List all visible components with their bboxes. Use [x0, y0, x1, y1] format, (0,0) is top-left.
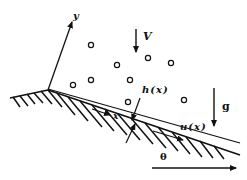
gravity-label: g: [222, 101, 230, 112]
diagram-drawing: [0, 0, 247, 180]
y-axis-arrow: [48, 22, 72, 90]
film-surface: [48, 89, 240, 143]
particle: [114, 62, 119, 67]
x-axis-label: x: [113, 112, 118, 121]
film-thickness-label: h(x): [142, 85, 169, 95]
particle: [88, 42, 93, 47]
film-thickness-arrow-top: [132, 98, 140, 120]
particle: [168, 60, 173, 65]
particle: [88, 77, 93, 82]
particle: [181, 97, 186, 102]
diagram-canvas: y V g h(x) x u(x) θ: [0, 0, 247, 180]
film-velocity-label: u(x): [180, 122, 207, 132]
particles: [70, 42, 186, 104]
particle: [127, 77, 132, 82]
particle: [145, 55, 150, 60]
y-axis-label: y: [73, 11, 79, 21]
angle-label: θ: [160, 152, 167, 162]
velocity-label: V: [143, 31, 152, 42]
particle: [125, 99, 130, 104]
particle: [70, 82, 75, 87]
